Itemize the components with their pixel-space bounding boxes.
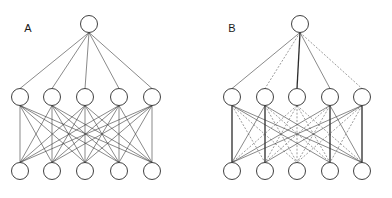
- network-node: [292, 16, 309, 33]
- network-node: [44, 163, 61, 180]
- network-node: [289, 89, 306, 106]
- network-node: [224, 89, 241, 106]
- network-node: [257, 163, 274, 180]
- network-node: [111, 89, 128, 106]
- network-node: [77, 89, 94, 106]
- panel-label-b: B: [228, 22, 235, 34]
- network-node: [322, 89, 339, 106]
- network-node: [12, 89, 29, 106]
- network-node: [144, 89, 161, 106]
- diagram-canvas: A B: [0, 0, 392, 198]
- network-node: [81, 16, 98, 33]
- network-node: [322, 163, 339, 180]
- network-node: [144, 163, 161, 180]
- network-node: [44, 89, 61, 106]
- panel-label-a: A: [24, 22, 32, 34]
- network-node: [354, 89, 371, 106]
- network-node: [289, 163, 306, 180]
- network-node: [12, 163, 29, 180]
- network-node: [77, 163, 94, 180]
- network-node: [257, 89, 274, 106]
- network-node: [111, 163, 128, 180]
- network-node: [354, 163, 371, 180]
- network-diagram-figure: A B: [0, 0, 392, 198]
- network-node: [224, 163, 241, 180]
